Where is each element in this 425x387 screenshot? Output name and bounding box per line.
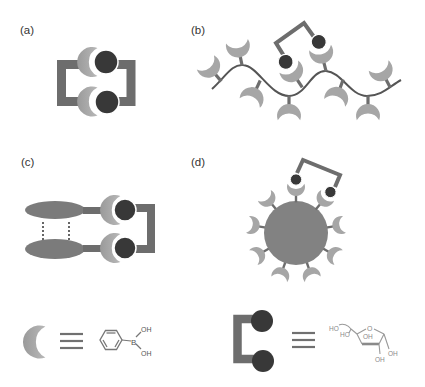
diol-linker-bracket <box>117 65 131 102</box>
panel-label-c: (c) <box>21 156 35 168</box>
boron-atom-label: B <box>131 338 136 347</box>
diol-circle-icon <box>114 237 136 259</box>
benzene-ring-icon <box>100 331 122 350</box>
equivalence-symbol-icon <box>60 334 83 348</box>
legend-sugar: HO HO O OH OH OH <box>238 310 399 372</box>
panel-c: (c) <box>21 156 151 263</box>
nanoparticle-core <box>264 201 328 265</box>
diol-circle-icon <box>114 199 136 221</box>
scaffold-ellipse-top <box>25 201 85 219</box>
diol-linker <box>276 23 314 56</box>
legend-diol-circle-icon <box>252 350 274 372</box>
bound-receptor-icon <box>272 49 313 94</box>
scaffold-ellipse-bottom <box>25 239 85 259</box>
pendant-receptor-icon <box>196 55 230 89</box>
pendant-receptor-icon <box>323 75 354 107</box>
hydroxyl-label-top: OH <box>141 326 152 333</box>
pendant-receptor-icon <box>277 96 301 121</box>
receptor-stem <box>83 207 101 214</box>
polymer-backbone <box>212 65 401 96</box>
pendant-receptor-icon <box>368 60 401 93</box>
sugar-label-oh-ring: OH <box>363 333 373 340</box>
hydroxyl-label-bottom: OH <box>141 350 152 357</box>
sugar-label-ho-1: HO <box>329 325 339 332</box>
pendant-receptor-icon <box>356 96 380 121</box>
sugar-label-ho-2: HO <box>340 331 350 338</box>
panel-b: (b) <box>191 23 401 120</box>
sugar-ring-oxygen: O <box>367 325 373 332</box>
legend-boronic-acid: B OH OH <box>23 326 152 359</box>
bound-receptor-icon <box>287 174 305 203</box>
diol-linker <box>297 160 340 187</box>
panel-label-a: (a) <box>20 24 34 36</box>
receptor-stem <box>83 245 101 252</box>
panel-a: (a) <box>20 24 131 117</box>
sugar-label-oh-right: OH <box>388 350 398 357</box>
panel-d: (d) <box>191 156 346 282</box>
pendant-receptor-icon <box>225 39 254 68</box>
legend-diol-circle-icon <box>251 310 273 332</box>
panel-label-d: (d) <box>191 156 205 168</box>
panel-label-b: (b) <box>191 24 205 36</box>
pendant-receptor-icon <box>239 75 271 108</box>
bound-receptor-icon <box>305 32 337 75</box>
diol-circle-icon <box>94 50 118 74</box>
host-guest-schematic-figure: (a) (b) (c) (d) <box>0 0 425 387</box>
sugar-label-oh-bottom: OH <box>375 356 385 363</box>
diol-circle-icon <box>95 90 119 114</box>
legend-crescent-icon <box>23 326 45 359</box>
equivalence-symbol-icon <box>292 333 315 347</box>
